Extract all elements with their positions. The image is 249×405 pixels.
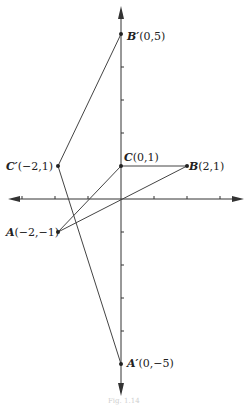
label-a: A(−2,−1) xyxy=(5,226,59,239)
y-axis-up-arrow-icon xyxy=(118,6,124,19)
x-axis-right-arrow-icon xyxy=(232,196,244,202)
point-c xyxy=(119,164,123,168)
label-a-prime: A′(0,−5) xyxy=(126,357,174,370)
label-c: C(0,1) xyxy=(124,151,159,164)
point-c-prime xyxy=(56,164,60,168)
point-a-prime xyxy=(119,362,123,366)
point-b-prime xyxy=(119,32,123,36)
coordinate-diagram: B′(0,5) C(0,1) B(2,1) C′(−2,1) A(−2,−1) … xyxy=(0,0,249,405)
y-axis-down-arrow-icon xyxy=(118,383,124,396)
label-b: B(2,1) xyxy=(188,160,224,173)
label-b-prime: B′(0,5) xyxy=(126,30,165,43)
label-c-prime: C′(−2,1) xyxy=(6,160,53,173)
x-axis-left-arrow-icon xyxy=(8,196,20,202)
figure-caption: Fig. 1.14 xyxy=(108,397,140,405)
